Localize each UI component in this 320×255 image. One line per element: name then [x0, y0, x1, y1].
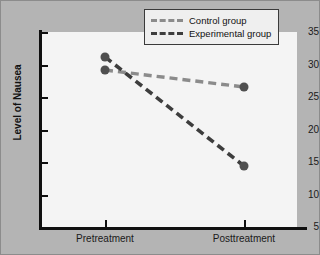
legend-label-control: Control group: [189, 15, 247, 26]
experimental-group-line: [105, 57, 244, 166]
legend-swatch-experimental-icon: [151, 32, 183, 35]
chart-figure: 35 30 25 20 15 10 5 Level of Nausea Pret…: [0, 0, 320, 255]
legend-entry-control: Control group: [151, 14, 271, 27]
legend-entry-experimental: Experimental group: [151, 27, 271, 40]
data-point-experimental-pretreatment: [101, 53, 110, 62]
chart-legend: Control group Experimental group: [144, 9, 279, 45]
legend-label-experimental: Experimental group: [189, 28, 271, 39]
legend-swatch-control-icon: [151, 19, 183, 22]
data-point-control-posttreatment: [240, 83, 249, 92]
data-point-experimental-posttreatment: [240, 162, 249, 171]
data-point-control-pretreatment: [101, 66, 110, 75]
